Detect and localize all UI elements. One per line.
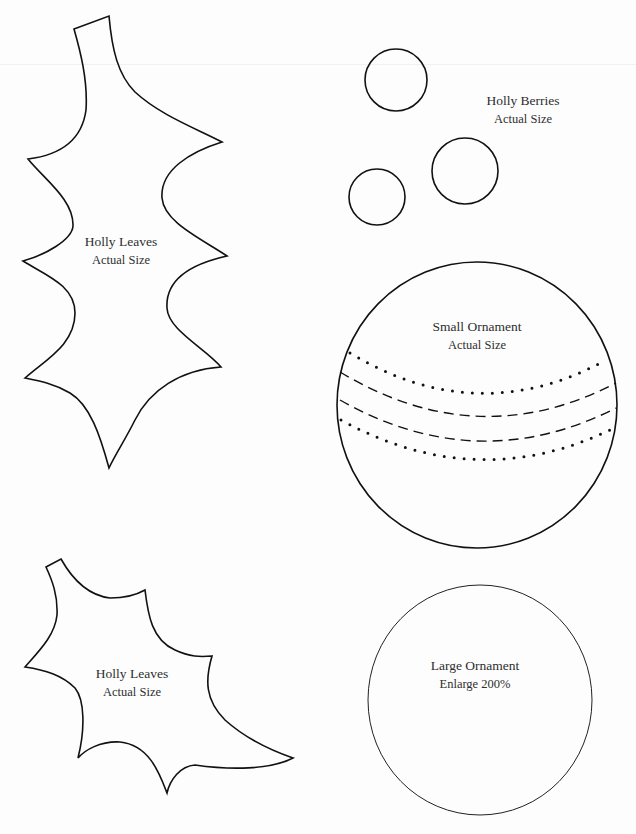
large-ornament-title: Large Ornament — [431, 657, 520, 675]
small-ornament-label: Small Ornament Actual Size — [433, 318, 522, 354]
holly-leaf-small-subtitle: Actual Size — [96, 683, 168, 701]
small-ornament-dotted-line-top — [350, 353, 606, 393]
holly-leaf-large-label: Holly Leaves Actual Size — [85, 233, 157, 269]
small-ornament-dashed-line-lower — [340, 400, 616, 441]
large-ornament-subtitle: Enlarge 200% — [431, 675, 520, 693]
large-ornament-label: Large Ornament Enlarge 200% — [431, 657, 520, 693]
large-ornament-outline — [368, 585, 592, 815]
holly-berries-label: Holly Berries Actual Size — [486, 92, 559, 128]
pattern-page: Holly Leaves Actual Size Holly Berries A… — [0, 0, 636, 834]
holly-leaf-small-label: Holly Leaves Actual Size — [96, 665, 168, 701]
holly-berries-title: Holly Berries — [486, 92, 559, 110]
holly-berries-subtitle: Actual Size — [486, 110, 559, 128]
small-ornament-title: Small Ornament — [433, 318, 522, 336]
small-ornament-subtitle: Actual Size — [433, 336, 522, 354]
small-ornament-outline — [337, 262, 617, 548]
holly-berry-2 — [432, 138, 498, 204]
holly-berry-3 — [349, 169, 405, 225]
small-ornament-dashed-line-upper — [340, 372, 616, 416]
holly-leaf-small-title: Holly Leaves — [96, 665, 168, 683]
holly-leaf-large-title: Holly Leaves — [85, 233, 157, 251]
holly-leaf-large-subtitle: Actual Size — [85, 251, 157, 269]
holly-berry-1 — [365, 49, 427, 111]
